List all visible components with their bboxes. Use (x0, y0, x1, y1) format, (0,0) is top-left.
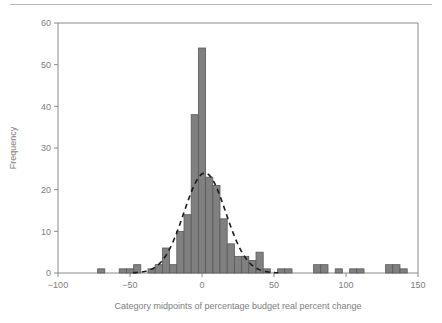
x-axis-tick-label: 100 (338, 280, 353, 290)
histogram-bars (98, 48, 408, 273)
histogram-bar (314, 265, 321, 273)
histogram-bar (357, 269, 364, 273)
histogram-bar (393, 265, 400, 273)
histogram-bar (234, 256, 241, 273)
x-axis-tick-label: 150 (410, 280, 425, 290)
histogram-bar (162, 248, 169, 273)
y-axis-tick-label: 0 (46, 268, 51, 278)
histogram-bar (177, 231, 184, 273)
y-axis-tick-label: 10 (41, 227, 51, 237)
histogram-bar (119, 269, 126, 273)
histogram-bar (321, 265, 328, 273)
histogram-bar (198, 48, 205, 273)
y-axis-tick-label: 30 (41, 143, 51, 153)
x-axis-tick-label: −100 (48, 280, 68, 290)
histogram-bar (350, 269, 357, 273)
histogram-bar (335, 269, 342, 273)
histogram-figure: 0102030405060−100−50050100150Category mi… (0, 0, 442, 323)
histogram-bar (126, 269, 133, 273)
histogram-bar (191, 115, 198, 273)
histogram-bar (278, 269, 285, 273)
histogram-bar (206, 177, 213, 273)
x-axis-tick-label: −50 (122, 280, 137, 290)
y-axis-tick-label: 20 (41, 185, 51, 195)
x-axis-tick-label: 0 (199, 280, 204, 290)
x-axis-title: Category midpoints of percentage budget … (114, 301, 361, 311)
y-axis-tick-label: 60 (41, 18, 51, 28)
y-axis-tick-label: 50 (41, 60, 51, 70)
y-axis-tick-label: 40 (41, 102, 51, 112)
histogram-bar (155, 265, 162, 273)
histogram-bar (220, 219, 227, 273)
histogram-chart: 0102030405060−100−50050100150Category mi… (0, 0, 442, 323)
histogram-bar (170, 265, 177, 273)
x-axis-tick-label: 50 (269, 280, 279, 290)
histogram-bar (386, 265, 393, 273)
histogram-bar (184, 215, 191, 273)
histogram-bar (285, 269, 292, 273)
histogram-bar (400, 269, 407, 273)
histogram-bar (227, 244, 234, 273)
histogram-bar (98, 269, 105, 273)
histogram-bar (213, 186, 220, 274)
y-axis-title: Frequency (8, 126, 18, 169)
